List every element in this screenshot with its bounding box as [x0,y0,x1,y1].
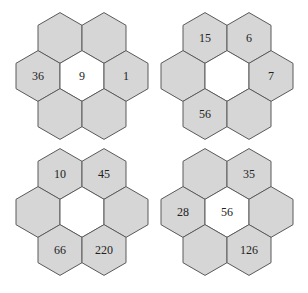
center-number: 56 [221,205,233,219]
petal-number: 35 [243,167,255,181]
petal-number: 66 [54,243,66,257]
petal-number: 28 [177,205,189,219]
petal-number: 7 [268,69,274,83]
hex-flower-bottom-left: 104566220 [16,149,148,276]
center-number: 9 [79,69,85,83]
petal-number: 126 [240,243,258,257]
hex-flower-bottom-right: 352856126 [161,149,293,276]
petal-number: 10 [54,167,66,181]
petal-number: 36 [32,69,44,83]
petal-number: 15 [199,31,211,45]
petal-number: 45 [98,167,110,181]
petal-number: 220 [95,243,113,257]
hexagon-flower-diagram: 3691156756104566220352856126 [0,0,308,293]
hex-flower-top-right: 156756 [161,13,293,140]
petal-number: 6 [246,31,252,45]
petal-number: 1 [123,69,129,83]
hex-flower-top-left: 3691 [16,13,148,140]
petal-number: 56 [199,107,211,121]
